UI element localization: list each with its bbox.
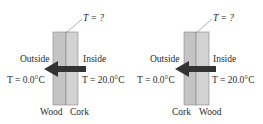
- outside-temp: T = 0.0°C: [7, 76, 45, 86]
- left-layer-label: Cork: [172, 108, 191, 118]
- inside-label: Inside: [83, 55, 106, 65]
- outside-temp: T = 0.0°C: [137, 76, 175, 86]
- inside-label: Inside: [213, 55, 236, 65]
- left-layer-label: Wood: [40, 108, 62, 118]
- panel-2-graphics: [175, 19, 216, 105]
- interface-temp-query: T = ?: [213, 14, 234, 24]
- interface-leader-line: [66, 19, 82, 33]
- panel-1-graphics: [44, 19, 86, 105]
- interface-leader-line: [196, 19, 212, 33]
- outside-label: Outside: [150, 55, 180, 65]
- inside-temp: T = 20.0°C: [82, 76, 125, 86]
- interface-temp-query: T = ?: [83, 14, 104, 24]
- outside-label: Outside: [20, 55, 50, 65]
- right-layer-label: Cork: [70, 108, 89, 118]
- inside-temp: T = 20.0°C: [212, 76, 255, 86]
- right-layer-label: Wood: [199, 108, 221, 118]
